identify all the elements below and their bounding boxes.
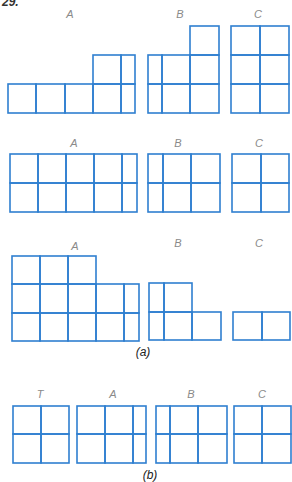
grid-cell (234, 434, 262, 463)
grid-cell (12, 284, 40, 313)
grid-cell (163, 183, 191, 212)
grid-cell (41, 434, 69, 463)
figure-a-row2-b: B (148, 137, 220, 212)
grid-cell (38, 154, 66, 183)
grid-cell (105, 434, 133, 463)
grid-cell (8, 84, 36, 113)
figure-label: C (255, 237, 263, 249)
figure-a-row1-c: C (231, 8, 289, 113)
grid-cell (68, 313, 96, 341)
caption-a: (a) (136, 345, 151, 359)
grid-cell (260, 84, 289, 113)
figure-b-c: C (234, 388, 291, 463)
grid-cell (66, 183, 94, 212)
grid-cell (149, 283, 164, 312)
grid-cell (262, 434, 291, 463)
grid-cell (12, 313, 40, 341)
grid-cell (121, 55, 135, 84)
grid-cell (164, 283, 192, 312)
grid-cell (124, 313, 139, 341)
grid-cell (198, 406, 227, 434)
grid-cell (36, 84, 65, 113)
grid-cell (66, 154, 94, 183)
grid-cell (77, 434, 105, 463)
figure-a-row2-c: C (232, 137, 289, 212)
grid-cell (124, 284, 139, 313)
grid-cell (191, 154, 220, 183)
grid-cell (163, 154, 191, 183)
figure-label: C (254, 8, 262, 20)
figure-a-row1-a: A (8, 8, 135, 113)
grid-cell (65, 84, 93, 113)
grid-cell (162, 55, 190, 84)
grid-cell (148, 183, 163, 212)
grid-cell (12, 256, 40, 284)
grid-cell (156, 406, 170, 434)
grid-cell (105, 406, 133, 434)
figure-label: T (37, 388, 45, 400)
grid-cell (190, 26, 219, 55)
grid-cell (93, 84, 121, 113)
grid-cell (262, 406, 291, 434)
grid-cell (10, 183, 38, 212)
grid-cell (148, 154, 163, 183)
grid-cell (93, 55, 121, 84)
figure-label: B (176, 8, 183, 20)
figure-a-row3-c: C (233, 237, 290, 340)
figure-label: A (70, 240, 78, 252)
figure-label: C (255, 137, 263, 149)
grid-cell (231, 26, 260, 55)
figure-label: A (69, 137, 77, 149)
grid-cell (261, 183, 289, 212)
grid-cell (190, 84, 219, 113)
figures-layer: ABCABCABCTABC (8, 8, 291, 463)
grid-cell (162, 84, 190, 113)
figure-label: B (174, 237, 181, 249)
grid-cell (40, 313, 68, 341)
grid-cell (40, 256, 68, 284)
figure-b-a: A (77, 388, 146, 463)
grid-cell (260, 55, 289, 84)
grid-cell (68, 256, 96, 284)
grid-cell (234, 406, 262, 434)
figure-label: A (108, 388, 116, 400)
grid-cell (148, 84, 162, 113)
figure-a-row1-b: B (148, 8, 219, 113)
grid-cell (190, 55, 219, 84)
grid-cell (41, 406, 69, 434)
grid-cell (133, 434, 146, 463)
grid-cell (262, 312, 290, 340)
grid-cell (94, 183, 122, 212)
grid-cell (77, 406, 105, 434)
grid-cell (170, 406, 198, 434)
grid-cell (38, 183, 66, 212)
grid-figures-diagram: 29. ABCABCABCTABC (a) (b) (0, 0, 292, 482)
grid-cell (148, 55, 162, 84)
grid-cell (260, 26, 289, 55)
grid-cell (96, 313, 124, 341)
grid-cell (40, 284, 68, 313)
grid-cell (231, 55, 260, 84)
grid-cell (261, 154, 289, 183)
figure-label: A (65, 8, 73, 20)
grid-cell (121, 84, 135, 113)
figure-b-b: B (156, 388, 227, 463)
grid-cell (170, 434, 198, 463)
figure-label: B (187, 388, 194, 400)
grid-cell (149, 312, 164, 340)
grid-cell (164, 312, 192, 340)
grid-cell (233, 312, 262, 340)
figure-label: B (174, 137, 181, 149)
grid-cell (96, 284, 124, 313)
grid-cell (10, 154, 38, 183)
grid-cell (68, 284, 96, 313)
grid-cell (231, 84, 260, 113)
grid-cell (232, 183, 261, 212)
figure-a-row3-b: B (149, 237, 221, 340)
figure-label: C (258, 388, 266, 400)
grid-cell (232, 154, 261, 183)
figure-a-row3-a: A (12, 240, 139, 341)
figure-a-row2-a: A (10, 137, 137, 212)
caption-b: (b) (143, 468, 158, 482)
grid-cell (94, 154, 122, 183)
